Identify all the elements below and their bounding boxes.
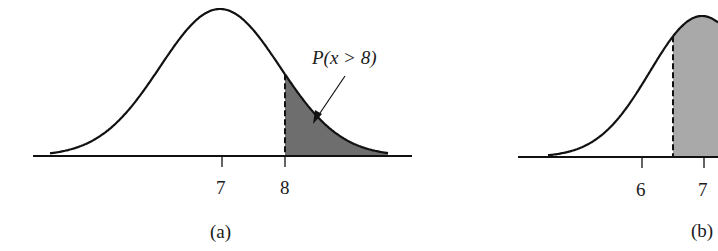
tick-label-8-a: 8 (280, 178, 290, 197)
caption-b: (b) (691, 221, 713, 240)
panel-b (518, 16, 718, 168)
tick-label-7-a: 7 (216, 178, 226, 197)
caption-a: (a) (210, 222, 231, 241)
tick-label-7-b: 7 (698, 180, 708, 199)
shaded-area-a (285, 74, 388, 156)
shaded-area-b (673, 16, 718, 157)
normal-curve-a (50, 9, 388, 153)
annotation-arrow (318, 76, 345, 116)
panel-a (33, 9, 412, 167)
probability-annotation: P(x > 8) (312, 48, 377, 67)
normal-distribution-figure (0, 0, 718, 251)
tick-label-6-b: 6 (636, 180, 646, 199)
